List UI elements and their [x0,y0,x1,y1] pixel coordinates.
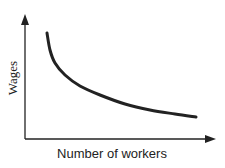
demand-curve [47,33,196,117]
y-axis-label: Wages [5,61,21,95]
y-axis-arrow-icon [21,14,29,25]
chart-canvas [0,0,225,168]
x-axis-label: Number of workers [57,146,167,161]
wages-chart: Wages Number of workers [0,0,225,168]
x-axis-arrow-icon [205,135,216,143]
